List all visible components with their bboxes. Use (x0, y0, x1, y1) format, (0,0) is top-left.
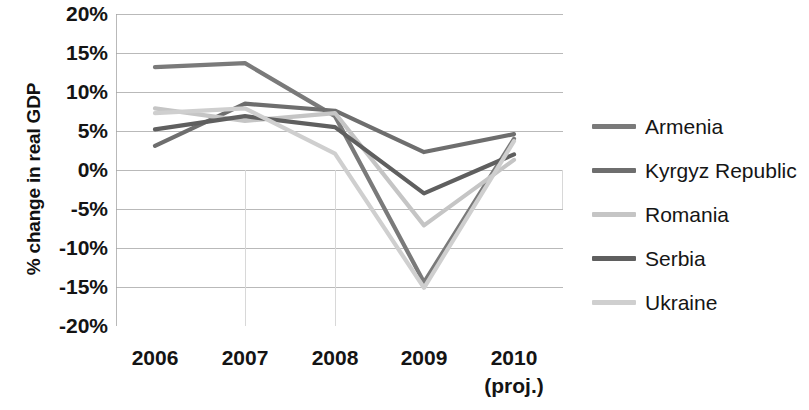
legend-color-swatch (592, 300, 636, 305)
legend-color-swatch (592, 124, 636, 129)
plot-area (116, 14, 563, 326)
legend-label: Kyrgyz Republic (645, 160, 797, 181)
y-axis-tick-label: 0% (18, 159, 108, 180)
y-axis-tick-label: 20% (18, 3, 108, 24)
y-axis-tick-label: -15% (18, 276, 108, 297)
legend-label: Armenia (645, 116, 723, 137)
axis-lines (116, 14, 117, 326)
legend-item[interactable]: Armenia (592, 104, 807, 148)
x-axis-tick-label: 2010(proj.) (454, 344, 574, 399)
x-axis-tick-label-year: 2010 (491, 346, 538, 369)
legend-item[interactable]: Romania (592, 192, 807, 236)
legend-item[interactable]: Ukraine (592, 280, 807, 324)
y-axis-tick-label: -20% (18, 315, 108, 336)
legend-label: Ukraine (645, 292, 717, 313)
y-axis-tick-label: 15% (18, 42, 108, 63)
x-axis-tick-label-year: 2009 (401, 346, 448, 369)
y-axis-tick-label: -10% (18, 237, 108, 258)
y-axis-tick-label: 5% (18, 120, 108, 141)
legend-color-swatch (592, 168, 636, 173)
series-lines (155, 63, 514, 288)
x-axis-tick-labels: 20062007200820092010(proj.) (0, 344, 600, 410)
x-axis-tick-label-year: 2008 (312, 346, 359, 369)
x-axis-tick-label-year: 2006 (132, 346, 179, 369)
y-axis-tick-label: 10% (18, 81, 108, 102)
legend-label: Romania (645, 204, 729, 225)
legend-label: Serbia (645, 248, 706, 269)
legend-item[interactable]: Serbia (592, 236, 807, 280)
x-axis-tick-label-note: (proj.) (454, 372, 574, 400)
chart-legend: ArmeniaKyrgyz RepublicRomaniaSerbiaUkrai… (592, 104, 807, 324)
plot-canvas (116, 14, 563, 326)
gdp-line-chart: % change in real GDP 20%15%10%5%0%-5%-10… (0, 0, 809, 410)
x-axis-tick-label-year: 2007 (222, 346, 269, 369)
legend-color-swatch (592, 212, 636, 217)
legend-color-swatch (592, 256, 636, 261)
y-axis-tick-label: -5% (18, 198, 108, 219)
series-line-armenia (155, 63, 514, 282)
legend-item[interactable]: Kyrgyz Republic (592, 148, 807, 192)
